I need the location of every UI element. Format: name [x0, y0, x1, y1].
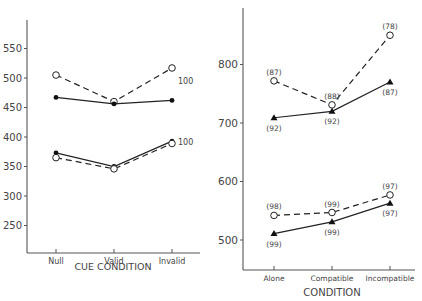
point-annotation: (87)	[382, 88, 397, 97]
y-tick-label: 300	[3, 191, 22, 202]
y-tick-label: 800	[218, 58, 238, 70]
open-circle-marker	[169, 140, 176, 147]
y-tick-label: 350	[3, 161, 22, 172]
y-tick-label: 500	[218, 234, 238, 246]
open-circle-marker	[271, 212, 278, 219]
y-tick-label: 600	[218, 175, 238, 187]
series-end-label: 100	[178, 138, 193, 147]
filled-circle-marker	[112, 102, 117, 107]
y-tick-label: 250	[3, 220, 22, 231]
series-end-label: 100	[178, 77, 193, 86]
filled-circle-marker	[54, 95, 59, 100]
y-tick-label: 450	[3, 102, 22, 113]
y-tick-label: 700	[218, 117, 238, 129]
x-tick-label: Null	[48, 257, 64, 266]
x-tick-label: Incompatible	[366, 274, 415, 283]
filled-triangle-marker	[387, 200, 394, 206]
x-tick-label: Compatible	[311, 274, 354, 283]
right-chart: 500600700800AloneCompatibleIncompatibleC…	[218, 8, 415, 298]
point-annotation: (92)	[324, 117, 339, 126]
point-annotation: (99)	[324, 200, 339, 209]
filled-triangle-marker	[387, 79, 394, 85]
point-annotation: (97)	[382, 182, 397, 191]
x-axis-label: CUE CONDITION	[74, 261, 151, 272]
x-tick-label: Alone	[263, 274, 285, 283]
point-annotation: (99)	[266, 240, 281, 249]
y-tick-label: 550	[3, 43, 22, 54]
x-axis-label: CONDITION	[303, 287, 360, 298]
filled-circle-marker	[170, 98, 175, 103]
open-circle-marker	[329, 102, 336, 109]
point-annotation: (99)	[324, 228, 339, 237]
point-annotation: (98)	[266, 202, 281, 211]
point-annotation: (88)	[324, 92, 339, 101]
point-annotation: (97)	[382, 209, 397, 218]
series-line-lower-solid-filled	[56, 141, 172, 166]
y-tick-label: 400	[3, 132, 22, 143]
open-circle-marker	[53, 154, 60, 161]
open-circle-marker	[111, 166, 118, 173]
open-circle-marker	[271, 78, 278, 85]
left-chart: 250300350400450500550NullValidInvalidCUE…	[3, 20, 200, 272]
point-annotation: (92)	[266, 124, 281, 133]
open-circle-marker	[169, 65, 176, 72]
chart-figure: 250300350400450500550NullValidInvalidCUE…	[0, 0, 422, 301]
open-circle-marker	[329, 209, 336, 216]
filled-triangle-marker	[329, 108, 336, 114]
open-circle-marker	[53, 72, 60, 79]
point-annotation: (87)	[266, 68, 281, 77]
x-tick-label: Invalid	[159, 257, 186, 266]
series-line-upper-dashed-open	[56, 68, 172, 102]
y-tick-label: 500	[3, 73, 22, 84]
open-circle-marker	[387, 192, 394, 199]
open-circle-marker	[387, 32, 394, 39]
point-annotation: (78)	[382, 22, 397, 31]
